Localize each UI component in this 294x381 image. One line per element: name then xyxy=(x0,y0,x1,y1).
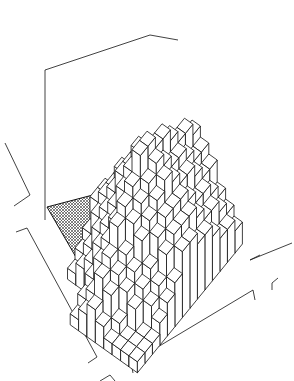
stepped-block-massing xyxy=(68,118,243,373)
isometric-block-drawing xyxy=(0,0,294,381)
street-corner-right-top xyxy=(250,243,292,260)
street-corner-bottom-left xyxy=(100,375,115,381)
drawing-canvas xyxy=(0,0,294,381)
street-corner-right xyxy=(272,278,278,290)
frame-outline xyxy=(45,35,178,70)
street-corner-left-top xyxy=(5,143,30,206)
